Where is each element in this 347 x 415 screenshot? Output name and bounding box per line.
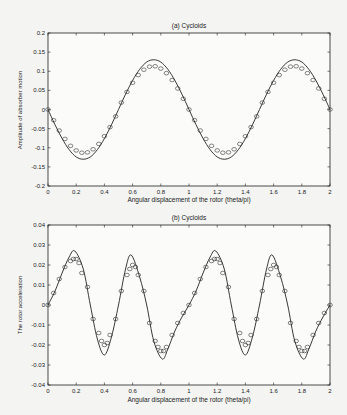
panel-b-title: (b) Cycloids xyxy=(172,214,207,222)
x-tick-label: 1.8 xyxy=(298,189,307,195)
x-tick-label: 0.2 xyxy=(72,388,81,394)
y-tick-label: -0.15 xyxy=(31,164,45,170)
x-tick-label: 0 xyxy=(46,388,50,394)
x-tick-label: 0.8 xyxy=(157,189,166,195)
panel-b-xlabel: Angular displacement of the rotor (theta… xyxy=(127,396,250,404)
x-tick-label: 2 xyxy=(328,388,332,394)
y-tick-label: 0.04 xyxy=(33,222,45,228)
y-tick-label: 0 xyxy=(42,302,46,308)
x-tick-label: 0 xyxy=(46,189,50,195)
x-tick-label: 1.8 xyxy=(298,388,307,394)
x-tick-label: 0.2 xyxy=(72,189,81,195)
x-tick-label: 1.2 xyxy=(213,388,222,394)
y-tick-label: -0.02 xyxy=(31,342,45,348)
y-tick-label: -0.01 xyxy=(31,322,45,328)
x-tick-label: 0.4 xyxy=(100,189,109,195)
x-tick-label: 1.2 xyxy=(213,189,222,195)
panel-a-cycloids: (a) Cycloids 00.20.40.60.811.21.41.61.82… xyxy=(17,22,332,204)
y-tick-label: -0.1 xyxy=(35,145,46,151)
panel-a-title: (a) Cycloids xyxy=(172,22,207,30)
x-tick-label: 1.4 xyxy=(241,189,250,195)
x-tick-label: 0.4 xyxy=(100,388,109,394)
y-tick-label: 0.15 xyxy=(33,49,45,55)
figure: (a) Cycloids 00.20.40.60.811.21.41.61.82… xyxy=(0,0,347,415)
x-tick-label: 1.6 xyxy=(269,189,278,195)
panel-a-xlabel: Angular displacement of the rotor (theta… xyxy=(127,196,250,204)
x-tick-label: 0.6 xyxy=(128,388,137,394)
panel-b-cycloids: (b) Cycloids 00.20.40.60.811.21.41.61.82… xyxy=(17,214,332,404)
y-tick-label: 0.2 xyxy=(37,30,46,36)
y-tick-label: 0.03 xyxy=(33,242,45,248)
x-tick-label: 1 xyxy=(187,388,191,394)
panel-a-ylabel: Amplitude of absorber motion xyxy=(17,71,23,149)
x-tick-label: 2 xyxy=(328,189,332,195)
y-tick-label: 0.05 xyxy=(33,87,45,93)
x-tick-label: 0.6 xyxy=(128,189,137,195)
y-tick-label: 0 xyxy=(42,107,46,113)
x-tick-label: 1 xyxy=(187,189,191,195)
x-tick-label: 1.6 xyxy=(269,388,278,394)
y-tick-label: -0.05 xyxy=(31,126,45,132)
x-tick-label: 1.4 xyxy=(241,388,250,394)
y-tick-label: 0.01 xyxy=(33,282,45,288)
y-tick-label: -0.03 xyxy=(31,362,45,368)
y-tick-label: -0.04 xyxy=(31,382,45,388)
panel-b-ylabel: The rotor acceleration xyxy=(17,276,23,334)
x-tick-label: 0.8 xyxy=(157,388,166,394)
y-tick-label: -0.2 xyxy=(35,183,46,189)
y-tick-label: 0.02 xyxy=(33,262,45,268)
y-tick-label: 0.1 xyxy=(37,68,46,74)
